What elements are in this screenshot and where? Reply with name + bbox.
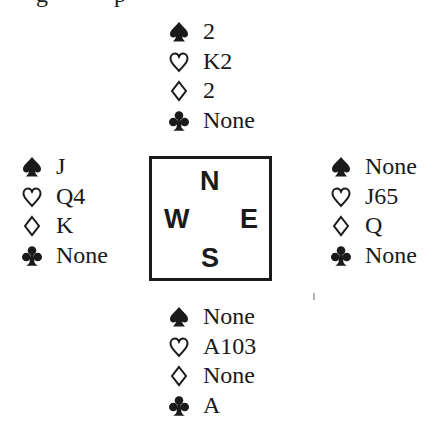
east-diamonds-cards: Q <box>365 211 382 239</box>
compass-box: N W E S <box>149 156 272 281</box>
club-icon <box>168 395 190 417</box>
south-diamonds-cards: None <box>203 361 255 389</box>
compass-west-label: W <box>164 206 189 233</box>
cutoff-caption-descenders: g p <box>30 0 126 6</box>
heart-icon <box>168 336 190 358</box>
compass-south-label: S <box>201 245 219 272</box>
south-clubs-cards: A <box>203 391 220 419</box>
west-hearts-cards: Q4 <box>56 182 85 210</box>
north-diamonds-cards: 2 <box>203 76 215 104</box>
diamond-icon <box>168 80 190 102</box>
east-clubs-cards: None <box>365 241 417 269</box>
spade-icon <box>330 156 352 178</box>
spade-icon <box>168 306 190 328</box>
diamond-icon <box>330 215 352 237</box>
spade-icon <box>168 21 190 43</box>
east-hearts-cards: J65 <box>365 182 398 210</box>
compass-east-label: E <box>240 206 258 233</box>
heart-icon <box>330 186 352 208</box>
west-diamonds-cards: K <box>56 211 73 239</box>
diamond-icon <box>168 365 190 387</box>
heart-icon <box>168 51 190 73</box>
compass-north-label: N <box>200 168 220 195</box>
club-icon <box>21 245 43 267</box>
club-icon <box>330 245 352 267</box>
heart-icon <box>21 186 43 208</box>
west-spades-cards: J <box>56 152 65 180</box>
spade-icon <box>21 156 43 178</box>
north-hearts-cards: K2 <box>203 47 232 75</box>
west-clubs-cards: None <box>56 241 108 269</box>
north-clubs-cards: None <box>203 106 255 134</box>
north-spades-cards: 2 <box>203 17 215 45</box>
diamond-icon <box>21 215 43 237</box>
south-spades-cards: None <box>203 302 255 330</box>
club-icon <box>168 110 190 132</box>
scan-artifact <box>313 293 315 300</box>
south-hearts-cards: A103 <box>203 332 256 360</box>
east-spades-cards: None <box>365 152 417 180</box>
